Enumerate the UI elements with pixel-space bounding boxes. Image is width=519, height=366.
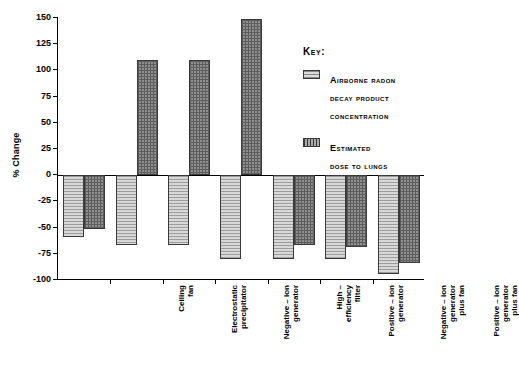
bar-radon-concentration	[325, 175, 346, 259]
x-axis-label: Negative – ion generator	[282, 285, 300, 366]
x-tick-mark	[268, 279, 269, 284]
bar-radon-concentration	[116, 175, 137, 245]
legend-item: Estimated dose to lungs	[303, 137, 439, 173]
legend-label: Estimated dose to lungs	[330, 143, 388, 171]
y-tick-label: -50	[38, 222, 51, 232]
chart-legend: Key: Airborne radon decay product concen…	[303, 46, 439, 187]
bar-radon-concentration	[168, 175, 189, 245]
y-tick-label: 100	[36, 64, 51, 74]
y-tick-label: 25	[41, 143, 51, 153]
bar-group	[110, 18, 162, 279]
y-tick-label: -100	[33, 274, 51, 284]
legend-entries: Airborne radon decay product concentrati…	[303, 69, 439, 173]
x-axis-label: Negative – ion generator plus fan	[439, 285, 466, 366]
bar-radon-concentration	[273, 175, 294, 259]
y-tick-label: -25	[38, 195, 51, 205]
y-tick-label: -75	[38, 248, 51, 258]
x-tick-mark	[320, 279, 321, 284]
x-axis-label: Ceiling fan	[177, 285, 195, 366]
x-tick-mark	[215, 279, 216, 284]
legend-title: Key:	[303, 46, 439, 57]
y-tick-label: 150	[36, 12, 51, 22]
y-tick-label: 75	[41, 91, 51, 101]
x-axis-label: Electrostatic precipitator	[230, 285, 248, 366]
legend-label: Airborne radon decay product concentrati…	[330, 75, 396, 121]
bar-estimated-dose	[189, 60, 210, 175]
bar-group	[215, 18, 267, 279]
bar-estimated-dose	[84, 175, 105, 228]
bar-group	[163, 18, 215, 279]
bar-group	[58, 18, 110, 279]
x-axis-label: High – efficiency filter	[335, 285, 362, 366]
bar-estimated-dose	[399, 175, 420, 263]
legend-item: Airborne radon decay product concentrati…	[303, 69, 439, 123]
x-axis-label: Positive – ion generator	[387, 285, 405, 366]
bar-radon-concentration	[378, 175, 399, 274]
y-axis-title: % Change	[11, 115, 21, 195]
bar-radon-concentration	[220, 175, 241, 259]
y-tick-label: 0	[46, 169, 51, 179]
x-tick-mark	[110, 279, 111, 284]
x-tick-mark	[163, 279, 164, 284]
x-axis-label: Positive – ion generator plus fan	[492, 285, 519, 366]
x-tick-mark	[373, 279, 374, 284]
y-tick-mark	[53, 279, 58, 280]
bar-estimated-dose	[241, 19, 262, 175]
bar-radon-concentration	[63, 175, 84, 237]
y-tick-label: 50	[41, 117, 51, 127]
y-tick-label: 125	[36, 38, 51, 48]
legend-swatch-estimated-dose	[303, 138, 320, 147]
legend-swatch-radon-concentration	[303, 70, 320, 79]
bar-estimated-dose	[137, 60, 158, 175]
